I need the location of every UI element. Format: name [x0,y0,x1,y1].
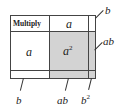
multiply-label: Multiply [13,20,41,28]
leader-line-bottom-right [88,78,92,90]
row-a-label: a [26,46,32,58]
column-a-label: a [66,18,72,30]
leader-line-right-top [95,10,103,18]
bottom-mid-ab-label: ab [57,95,68,106]
leader-line-bottom-mid [65,78,69,91]
right-mid-ab-label: ab [103,36,114,47]
a-squared-label: a2 [63,45,73,57]
row-b-header-cell [10,70,50,79]
right-top-b-label: b [105,5,111,16]
bottom-right-b-squared-label: b2 [81,94,90,106]
leader-line-bottom-left [20,78,24,91]
ab-right-cell [88,31,96,71]
bottom-left-b-label: b [16,95,22,106]
